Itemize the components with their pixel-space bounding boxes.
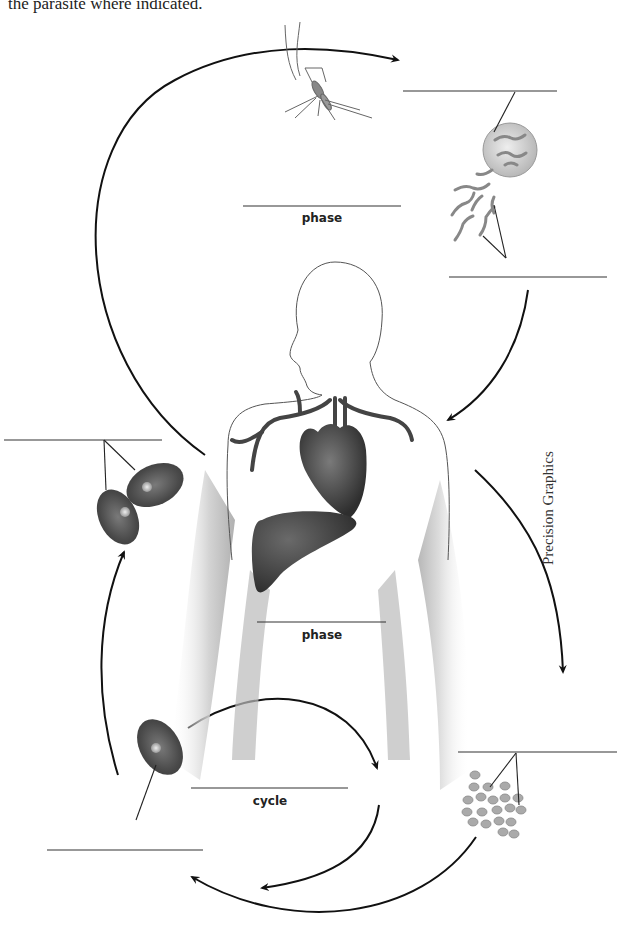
arrow-sporozoites-to-human (448, 290, 528, 420)
arrow-bottom-to-rbc-left (101, 552, 124, 775)
human-figure (170, 262, 470, 790)
arrow-merozoites-to-bottom (192, 837, 476, 912)
label-cycle: cycle (253, 794, 287, 808)
label-human-phase: phase (302, 628, 343, 642)
malaria-lifecycle-diagram: phase phase cycle Precision Graphics (0, 0, 621, 938)
arrow-rbc-cycle-bottom (262, 805, 379, 888)
mosquito-illustration (285, 22, 372, 120)
merozoite-cluster (462, 753, 526, 838)
liver-illustration (252, 511, 357, 592)
heart-illustration (300, 424, 367, 518)
label-mosquito-phase: phase (302, 211, 343, 225)
arrow-human-to-mosquito (96, 49, 398, 455)
arrow-rbc-cycle-top (188, 699, 377, 768)
infected-rbcs-left (89, 440, 191, 551)
credit-text: Precision Graphics (540, 451, 556, 565)
oocyst-illustration (452, 92, 537, 258)
